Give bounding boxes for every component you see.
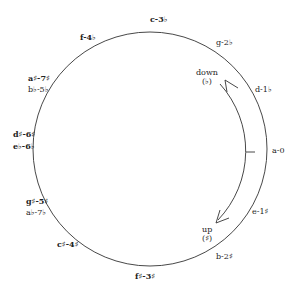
up-text: up — [202, 225, 212, 234]
arrowhead-down-icon — [225, 80, 238, 92]
key-label-d: d-1♭ — [255, 85, 272, 94]
arrowhead-up-icon — [216, 210, 229, 223]
key-label-csharp: c♯-4♯ — [57, 240, 79, 249]
key-label-asharp: a♯-7♯ — [28, 74, 50, 83]
key-label-eflat: e♭-6♭ — [13, 142, 35, 151]
key-label-aflat: a♭-7♭ — [26, 208, 46, 217]
key-label-f: f-4♭ — [80, 33, 96, 42]
key-label-a: a-0 — [272, 146, 285, 155]
key-label-dsharp: d♯-6♯ — [13, 130, 35, 139]
up-direction-label: up (♯) — [202, 225, 212, 243]
key-circle — [33, 32, 267, 266]
direction-arc — [218, 84, 246, 220]
key-label-gsharp: g♯-5♯ — [26, 197, 48, 206]
down-text: down — [196, 68, 218, 77]
key-label-fsharp: f♯-3♯ — [135, 272, 155, 281]
circle-diagram-canvas — [0, 0, 298, 297]
key-label-g: g-2♭ — [216, 38, 233, 47]
key-label-b: b-2♯ — [216, 252, 233, 261]
key-label-e: e-1♯ — [252, 207, 268, 216]
flat-symbol: (♭) — [196, 77, 218, 86]
sharp-symbol: (♯) — [202, 234, 212, 243]
key-label-bflat: b♭-5♭ — [28, 85, 48, 94]
key-label-c: c-3♭ — [150, 15, 168, 24]
down-direction-label: down (♭) — [196, 68, 218, 86]
